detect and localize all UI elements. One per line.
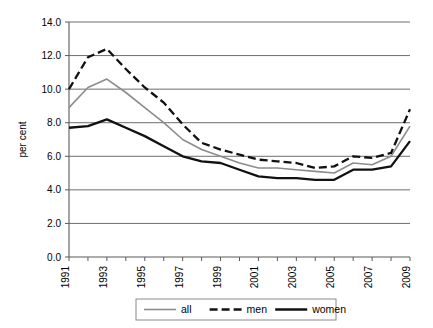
legend-label-men: men xyxy=(247,303,268,315)
y-tick-label: 2.0 xyxy=(47,218,61,229)
y-tick-label: 10.0 xyxy=(42,84,62,95)
x-tick-label: 1999 xyxy=(212,266,223,289)
y-axis-title: per cent xyxy=(17,121,28,157)
chart-container: 14.012.010.08.06.04.02.00.0 199119931995… xyxy=(0,0,433,328)
x-tick-label: 2005 xyxy=(325,266,336,289)
y-tick-label: 6.0 xyxy=(47,151,61,162)
x-tick-label: 1997 xyxy=(174,266,185,289)
y-tick-label: 8.0 xyxy=(47,117,61,128)
x-tick-label: 2009 xyxy=(401,266,412,289)
x-tick-label: 2003 xyxy=(287,266,298,289)
x-tick-label: 1995 xyxy=(136,266,147,289)
legend-label-all: all xyxy=(181,303,192,315)
unemployment-rate-line-chart: 14.012.010.08.06.04.02.00.0 199119931995… xyxy=(0,0,433,328)
x-tick-label: 1991 xyxy=(60,266,71,289)
y-tick-label: 0.0 xyxy=(47,252,61,263)
y-tick-label: 14.0 xyxy=(42,17,62,28)
x-tick-label: 2007 xyxy=(363,266,374,289)
y-tick-label: 4.0 xyxy=(47,184,61,195)
x-tick-label: 2001 xyxy=(249,266,260,289)
y-tick-label: 12.0 xyxy=(42,50,62,61)
legend-label-women: women xyxy=(311,303,346,315)
chart-legend: allmenwomen xyxy=(136,299,346,320)
x-tick-label: 1993 xyxy=(98,266,109,289)
